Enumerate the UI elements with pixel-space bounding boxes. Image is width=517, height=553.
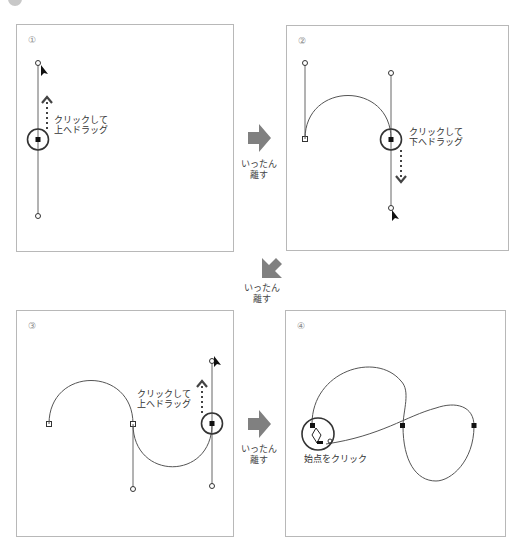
instruction-caption: クリックして 下へドラッグ (409, 127, 463, 147)
pen-path-illustration (286, 311, 507, 538)
right-arrow-icon (248, 124, 272, 152)
transition-label: いったん 離す (239, 159, 279, 181)
right-arrow-icon (248, 410, 272, 438)
transition-label: いったん 離す (239, 444, 279, 466)
transition-label: いったん 離す (242, 283, 282, 305)
pen-path-illustration (287, 26, 510, 252)
step-panel-2: ② クリックして 下へドラッグ (286, 25, 509, 251)
pen-path-illustration (17, 25, 235, 253)
step-panel-3: ③ クリックして 上へドラッグ (16, 310, 234, 537)
cursor-arrow-icon (41, 65, 48, 76)
instruction-caption: クリックして 上へドラッグ (54, 115, 108, 135)
pen-path-illustration (17, 311, 235, 538)
instruction-caption: クリックして 上へドラッグ (137, 389, 191, 409)
instruction-caption: 始点をクリック (304, 454, 367, 464)
pen-tool-cursor-icon (312, 428, 321, 443)
step-panel-4: ④ 始点をクリック (285, 310, 506, 537)
cursor-arrow-icon (214, 356, 221, 367)
cursor-arrow-icon (392, 210, 399, 221)
step-panel-1: ① クリックして 上へドラッグ (16, 24, 234, 252)
down-left-arrow-icon (260, 256, 284, 280)
decorative-header-mark (8, 0, 22, 6)
